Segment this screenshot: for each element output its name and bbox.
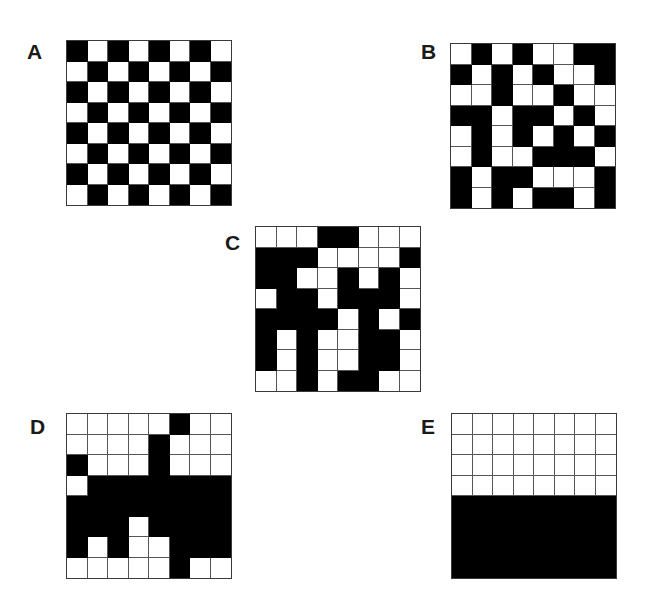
empty-cell <box>88 455 109 476</box>
pattern-grid-a <box>66 40 232 206</box>
filled-cell <box>170 103 191 124</box>
empty-cell <box>190 455 211 476</box>
filled-cell <box>108 123 129 144</box>
empty-cell <box>338 248 359 269</box>
empty-cell <box>211 455 232 476</box>
empty-cell <box>67 103 88 124</box>
filled-cell <box>555 517 576 538</box>
filled-cell <box>338 227 359 248</box>
empty-cell <box>574 126 595 147</box>
empty-cell <box>318 268 339 289</box>
filled-cell <box>297 371 318 392</box>
filled-cell <box>534 517 555 538</box>
filled-cell <box>493 517 514 538</box>
empty-cell <box>67 144 88 165</box>
empty-cell <box>108 558 129 579</box>
filled-cell <box>533 147 554 168</box>
filled-cell <box>338 289 359 310</box>
filled-cell <box>67 123 88 144</box>
filled-cell <box>170 496 191 517</box>
filled-cell <box>379 350 400 371</box>
filled-cell <box>297 248 318 269</box>
empty-cell <box>493 476 514 497</box>
filled-cell <box>88 144 109 165</box>
empty-cell <box>379 309 400 330</box>
filled-cell <box>555 537 576 558</box>
empty-cell <box>170 123 191 144</box>
filled-cell <box>149 455 170 476</box>
empty-cell <box>534 476 555 497</box>
empty-cell <box>555 414 576 435</box>
empty-cell <box>129 455 150 476</box>
empty-cell <box>452 455 473 476</box>
filled-cell <box>129 496 150 517</box>
empty-cell <box>574 167 595 188</box>
empty-cell <box>575 476 596 497</box>
empty-cell <box>513 188 534 209</box>
filled-cell <box>211 185 232 206</box>
empty-cell <box>513 85 534 106</box>
empty-cell <box>277 227 298 248</box>
empty-cell <box>359 248 380 269</box>
empty-cell <box>190 185 211 206</box>
empty-cell <box>277 330 298 351</box>
filled-cell <box>359 350 380 371</box>
filled-cell <box>277 289 298 310</box>
empty-cell <box>318 248 339 269</box>
filled-cell <box>513 44 534 65</box>
empty-cell <box>129 123 150 144</box>
empty-cell <box>318 350 339 371</box>
filled-cell <box>129 144 150 165</box>
filled-cell <box>170 185 191 206</box>
empty-cell <box>492 147 513 168</box>
empty-cell <box>554 65 575 86</box>
empty-cell <box>211 82 232 103</box>
empty-cell <box>472 85 493 106</box>
empty-cell <box>359 227 380 248</box>
panel-label-a: A <box>27 41 42 62</box>
empty-cell <box>190 558 211 579</box>
empty-cell <box>67 435 88 456</box>
empty-cell <box>452 476 473 497</box>
filled-cell <box>108 537 129 558</box>
filled-cell <box>149 82 170 103</box>
empty-cell <box>554 167 575 188</box>
filled-cell <box>170 476 191 497</box>
filled-cell <box>88 62 109 83</box>
empty-cell <box>533 85 554 106</box>
filled-cell <box>338 371 359 392</box>
empty-cell <box>277 371 298 392</box>
empty-cell <box>534 455 555 476</box>
filled-cell <box>277 268 298 289</box>
empty-cell <box>554 44 575 65</box>
empty-cell <box>493 435 514 456</box>
empty-cell <box>129 558 150 579</box>
empty-cell <box>108 185 129 206</box>
empty-cell <box>451 147 472 168</box>
filled-cell <box>452 537 473 558</box>
filled-cell <box>318 309 339 330</box>
pattern-grid-d <box>66 413 232 579</box>
filled-cell <box>493 558 514 579</box>
empty-cell <box>595 85 616 106</box>
filled-cell <box>452 558 473 579</box>
filled-cell <box>575 517 596 538</box>
filled-cell <box>190 41 211 62</box>
filled-cell <box>596 558 617 579</box>
empty-cell <box>534 414 555 435</box>
empty-cell <box>277 350 298 371</box>
empty-cell <box>533 126 554 147</box>
filled-cell <box>554 188 575 209</box>
empty-cell <box>149 414 170 435</box>
filled-cell <box>514 558 535 579</box>
filled-cell <box>277 309 298 330</box>
filled-cell <box>473 496 494 517</box>
empty-cell <box>493 455 514 476</box>
filled-cell <box>595 44 616 65</box>
empty-cell <box>88 123 109 144</box>
filled-cell <box>170 537 191 558</box>
filled-cell <box>555 496 576 517</box>
empty-cell <box>400 330 421 351</box>
empty-cell <box>67 476 88 497</box>
filled-cell <box>472 44 493 65</box>
